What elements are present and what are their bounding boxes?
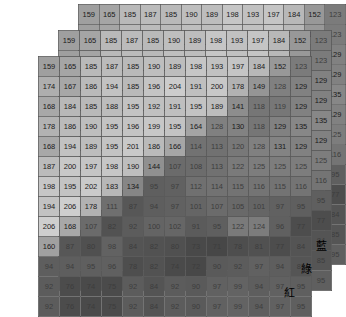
matrix-cell: 85 [311, 251, 332, 271]
matrix-cell: 185 [120, 5, 141, 25]
matrix-cell: 186 [144, 137, 165, 157]
matrix-cell: 100 [144, 217, 165, 237]
matrix-cell: 82 [144, 257, 165, 277]
matrix-cell: 129 [270, 117, 291, 137]
matrix-cell: 77 [291, 217, 312, 237]
matrix-cell: 84 [144, 297, 165, 317]
matrix-cell: 178 [81, 197, 102, 217]
matrix-cell: 95 [311, 191, 332, 211]
matrix-row: 168184185188195192191195189141118119129 [39, 97, 312, 117]
matrix-cell: 130 [228, 117, 249, 137]
matrix-cell: 185 [143, 31, 164, 51]
matrix-cell: 97 [270, 297, 291, 317]
matrix-cell: 168 [39, 97, 60, 117]
matrix-cell: 191 [186, 77, 207, 97]
channel-label-red: 紅 [284, 287, 295, 299]
matrix-cell: 198 [39, 177, 60, 197]
matrix-cell: 113 [207, 137, 228, 157]
matrix-cell: 118 [249, 117, 270, 137]
matrix-cell: 178 [39, 117, 60, 137]
matrix-cell: 134 [123, 177, 144, 197]
matrix-cell: 190 [181, 5, 202, 25]
matrix-cell: 112 [186, 177, 207, 197]
matrix-cell: 184 [269, 31, 290, 51]
matrix-cell: 114 [207, 177, 228, 197]
matrix-cell: 92 [123, 217, 144, 237]
matrix-cell: 195 [186, 97, 207, 117]
matrix-row: 159165185187185190189198193197184152123 [79, 5, 346, 25]
matrix-cell: 94 [39, 257, 60, 277]
matrix-cell: 76 [60, 277, 81, 297]
matrix-cell: 183 [102, 177, 123, 197]
matrix-cell: 190 [144, 57, 165, 77]
matrix-row: 187200197198190144107108113122125125125 [39, 157, 312, 177]
matrix-cell: 195 [60, 177, 81, 197]
matrix-cell: 124 [249, 217, 270, 237]
matrix-cell: 198 [222, 5, 243, 25]
matrix-cell: 165 [99, 5, 120, 25]
matrix-cell: 159 [39, 57, 60, 77]
matrix-cell: 129 [311, 91, 332, 111]
matrix-cell: 123 [311, 51, 332, 71]
matrix-cell: 75 [102, 277, 123, 297]
matrix-cell: 189 [81, 137, 102, 157]
matrix-cell: 94 [249, 277, 270, 297]
matrix-row: 159165185187185190189198193197184152123 [59, 31, 332, 51]
matrix-cell: 75 [102, 297, 123, 317]
matrix-cell: 184 [60, 97, 81, 117]
matrix-cell: 206 [39, 217, 60, 237]
matrix-cell: 159 [79, 5, 100, 25]
matrix-cell: 125 [311, 151, 332, 171]
matrix-cell: 92 [165, 297, 186, 317]
matrix-cell: 77 [311, 211, 332, 231]
matrix-cell: 128 [207, 117, 228, 137]
matrix-cell: 97 [207, 277, 228, 297]
matrix-cell: 195 [102, 137, 123, 157]
matrix-cell: 111 [102, 197, 123, 217]
matrix-cell: 191 [165, 97, 186, 117]
matrix-cell: 198 [206, 31, 227, 51]
matrix-cell: 197 [228, 57, 249, 77]
matrix-cell: 95 [81, 257, 102, 277]
matrix-cell: 196 [144, 77, 165, 97]
matrix-cell: 72 [186, 257, 207, 277]
matrix-row: 206168107829210010291951221249677 [39, 217, 312, 237]
matrix-cell: 149 [249, 77, 270, 97]
matrix-cell: 194 [39, 197, 60, 217]
matrix-cell: 185 [123, 77, 144, 97]
matrix-cell: 185 [161, 5, 182, 25]
matrix-cell: 193 [243, 5, 264, 25]
matrix-cell: 107 [207, 197, 228, 217]
matrix-cell: 165 [80, 31, 101, 51]
matrix-cell: 97 [270, 197, 291, 217]
matrix-cell: 168 [60, 217, 81, 237]
matrix-cell: 198 [186, 57, 207, 77]
matrix-cell: 128 [249, 137, 270, 157]
matrix-cell: 160 [39, 237, 60, 257]
matrix-cell: 116 [291, 177, 312, 197]
matrix-row: 1981952021831349597112114115116115116 [39, 177, 312, 197]
matrix-cell: 107 [165, 157, 186, 177]
matrix-cell: 92 [39, 277, 60, 297]
matrix-cell: 92 [165, 277, 186, 297]
matrix-cell: 204 [165, 77, 186, 97]
matrix-cell: 206 [60, 197, 81, 217]
matrix-cell: 90 [207, 257, 228, 277]
matrix-cell: 197 [81, 157, 102, 177]
matrix-cell: 118 [249, 97, 270, 117]
matrix-cell: 196 [123, 117, 144, 137]
matrix-cell: 189 [202, 5, 223, 25]
matrix-cell: 193 [207, 57, 228, 77]
matrix-cell: 195 [102, 117, 123, 137]
matrix-cell: 84 [144, 277, 165, 297]
matrix-cell: 113 [207, 157, 228, 177]
matrix-cell: 159 [59, 31, 80, 51]
matrix-cell: 152 [270, 57, 291, 77]
matrix-cell: 123 [291, 57, 312, 77]
matrix-cell: 123 [311, 31, 332, 51]
channel-label-green: 綠 [301, 263, 312, 275]
matrix-cell: 105 [228, 197, 249, 217]
matrix-cell: 81 [249, 237, 270, 257]
matrix-cell: 187 [39, 157, 60, 177]
